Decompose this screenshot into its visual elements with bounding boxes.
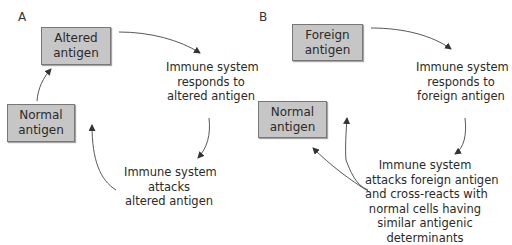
arrow-foreign-to-responds xyxy=(371,28,451,49)
arrow-altered-to-responds xyxy=(119,32,200,53)
arrow-attacks-to-normal-b-1 xyxy=(346,118,368,190)
arrow-attacks-to-normal xyxy=(92,125,116,190)
arrows-layer xyxy=(0,0,512,245)
arrow-responds-to-attacks xyxy=(198,118,210,158)
arrow-b-responds-to-attacks xyxy=(455,118,466,154)
arrow-normal-to-altered xyxy=(37,69,51,101)
